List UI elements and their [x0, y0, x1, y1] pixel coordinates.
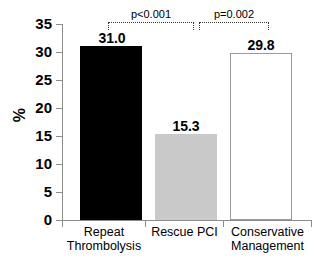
category-label-line-1: Repeat: [62, 225, 146, 239]
y-tick-label-5: 5: [22, 184, 52, 199]
bar-rescue-pci: [155, 134, 217, 220]
bar-value-repeat-thrombolysis: 31.0: [81, 31, 143, 45]
category-label-line-2: Thrombolysis: [62, 239, 146, 253]
category-label-line-1: Conservative: [223, 225, 312, 239]
bar-chart-figure: % 35 30 25 20 15 10 5 0 p<0.001 p=0.002 …: [0, 0, 321, 268]
y-tick-mark-20: [56, 108, 62, 109]
y-tick-label-20: 20: [22, 100, 52, 115]
bar-repeat-thrombolysis: [80, 46, 142, 220]
category-label-line-2: Management: [223, 239, 312, 253]
bar-conservative-management: [230, 53, 292, 220]
x-axis-line: [62, 220, 311, 221]
y-tick-label-30: 30: [22, 44, 52, 59]
bar-value-conservative-management: 29.8: [230, 38, 292, 52]
y-tick-mark-5: [56, 192, 62, 193]
y-tick-mark-25: [56, 80, 62, 81]
y-tick-mark-15: [56, 136, 62, 137]
category-label-line-1: Rescue PCI: [145, 225, 224, 239]
category-label-conservative-management: Conservative Management: [223, 225, 312, 253]
y-tick-label-10: 10: [22, 156, 52, 171]
y-tick-label-35: 35: [22, 16, 52, 31]
category-label-rescue-pci: Rescue PCI: [145, 225, 224, 239]
significance-bracket-right: [199, 22, 269, 30]
y-tick-label-25: 25: [22, 72, 52, 87]
bar-value-rescue-pci: 15.3: [155, 119, 217, 133]
y-axis-line: [62, 24, 63, 221]
significance-label-left: p<0.001: [108, 9, 194, 20]
y-tick-label-15: 15: [22, 128, 52, 143]
y-tick-mark-10: [56, 164, 62, 165]
significance-bracket-left: [108, 22, 194, 30]
y-tick-mark-30: [56, 52, 62, 53]
y-tick-label-0: 0: [22, 212, 52, 227]
category-label-repeat-thrombolysis: Repeat Thrombolysis: [62, 225, 146, 253]
significance-label-right: p=0.002: [196, 9, 272, 20]
y-tick-mark-35: [56, 24, 62, 25]
